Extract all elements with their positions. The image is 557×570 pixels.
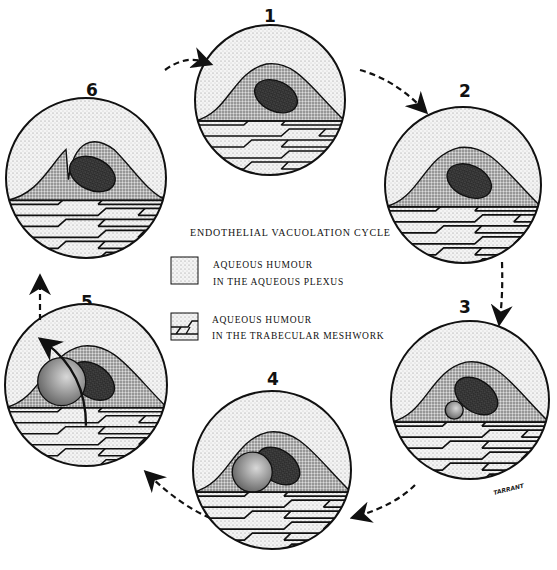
legend-label-line1: AQUEOUS HUMOUR (212, 315, 312, 325)
stage-5-illustration (5, 304, 167, 467)
arrow-2-to-3 (500, 262, 502, 318)
meshwork-line (138, 252, 166, 259)
stage-number-3: 3 (459, 297, 471, 317)
stage-4-illustration (193, 391, 351, 551)
stage-number-6: 6 (86, 80, 98, 100)
meshwork-line (514, 259, 541, 266)
legend-label-line2: IN THE AQUEOUS PLEXUS (213, 277, 344, 287)
meshwork-line (323, 544, 351, 551)
legend-item-trabecular-meshwork: AQUEOUS HUMOUR IN THE TRABECULAR MESHWOR… (171, 313, 384, 341)
legend-label-line1: AQUEOUS HUMOUR (213, 260, 313, 270)
legend: AQUEOUS HUMOUR IN THE AQUEOUS PLEXUS AQU… (171, 257, 384, 341)
legend-item-aqueous-plexus: AQUEOUS HUMOUR IN THE AQUEOUS PLEXUS (171, 257, 344, 287)
stage-number-2: 2 (459, 81, 471, 101)
meshwork-line (319, 173, 345, 180)
vacuole (445, 401, 463, 419)
arrow-3-to-4 (358, 485, 415, 516)
stage-1-illustration (195, 25, 345, 180)
legend-swatch-dotted (171, 257, 198, 284)
endothelial-vacuolation-diagram: 1 2 3 4 5 6 ENDOTHELIAL VACUOLATION CYCL… (0, 0, 557, 570)
meshwork-line (521, 474, 549, 481)
stage-number-4: 4 (267, 369, 279, 389)
stage-number-1: 1 (264, 6, 276, 26)
arrow-1-to-2 (360, 70, 422, 108)
diagram-title: ENDOTHELIAL VACUOLATION CYCLE (190, 227, 391, 238)
stage-6-illustration (6, 98, 166, 259)
artist-signature: TARRANT (493, 481, 526, 496)
vacuole (232, 452, 272, 492)
legend-label-line2: IN THE TRABECULAR MESHWORK (212, 331, 384, 341)
stage-3-illustration (391, 321, 549, 481)
arrow-6-to-1 (165, 60, 205, 70)
meshwork-line (139, 460, 167, 467)
stage-2-illustration (385, 107, 541, 266)
